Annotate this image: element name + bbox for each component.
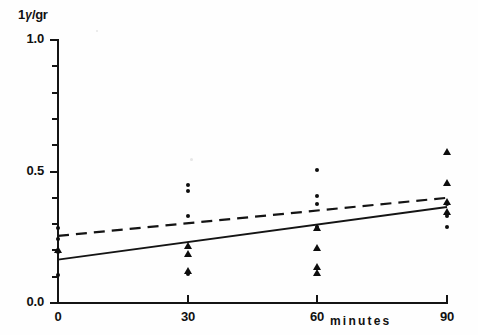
circle-marker bbox=[445, 225, 449, 229]
triangle-marker bbox=[184, 267, 192, 274]
chart-figure: 1γ/gr 0.00.51.00306090 minutes bbox=[0, 0, 478, 335]
circle-marker bbox=[186, 183, 190, 187]
triangle-marker bbox=[313, 269, 321, 276]
triangle-marker bbox=[184, 242, 192, 249]
triangle-marker bbox=[443, 179, 451, 186]
triangle-marker bbox=[443, 148, 451, 155]
x-axis-title: minutes bbox=[330, 314, 391, 328]
triangle-marker bbox=[443, 208, 451, 215]
scan-artifact bbox=[190, 158, 193, 161]
triangle-marker bbox=[313, 244, 321, 251]
solid-regression bbox=[58, 207, 447, 260]
circle-marker bbox=[56, 237, 60, 241]
regression-lines bbox=[0, 0, 478, 335]
circle-marker bbox=[56, 226, 60, 230]
triangle-marker bbox=[313, 224, 321, 231]
circle-marker bbox=[186, 214, 190, 218]
triangle-marker bbox=[54, 246, 62, 253]
scan-artifact bbox=[96, 30, 98, 32]
triangle-marker bbox=[184, 250, 192, 257]
dashed-regression bbox=[58, 198, 447, 236]
circle-marker bbox=[186, 189, 190, 193]
triangle-marker bbox=[443, 198, 451, 205]
